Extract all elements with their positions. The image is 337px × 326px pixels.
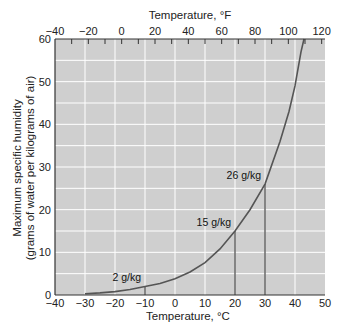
x2-tick-label: −20 [79,25,98,37]
x2-tick-label: 80 [249,25,261,37]
x-tick-label: 40 [289,297,301,309]
x2-axis-title: Temperature, °F [149,9,232,21]
y-tick-label: 30 [39,161,51,173]
x2-tick-label: 60 [216,25,228,37]
y-tick-label: 10 [39,246,51,258]
x-tick-label: −30 [76,297,95,309]
x2-tick-label: 0 [119,25,125,37]
y-tick-label: 50 [39,76,51,88]
x-tick-label: 30 [259,297,271,309]
x-tick-label: −20 [106,297,125,309]
x-tick-label: 10 [199,297,211,309]
annotation-label: 2 g/kg [112,271,141,283]
x-tick-labels: −40−30−20−1001020304050 [46,297,331,309]
annotation-label: 26 g/kg [227,169,262,181]
y-tick-label: 40 [39,118,51,130]
y-tick-label: 60 [39,33,51,45]
y-tick-label: 20 [39,204,51,216]
x-tick-label: 0 [172,297,178,309]
annotation-label: 15 g/kg [197,216,232,228]
y-axis-title-line1: Maximum specific humidity [11,99,23,237]
x2-tick-label: 40 [182,25,194,37]
x2-tick-labels: −40−20020406080100120 [46,25,331,44]
y-tick-label: 0 [45,289,51,301]
x2-tick-label: 100 [279,25,297,37]
y-tick-labels: 0102030405060 [39,33,51,301]
x-tick-label: −10 [136,297,155,309]
x-axis-title: Temperature, °C [146,310,230,322]
x-tick-label: 50 [319,297,331,309]
humidity-chart: −40−30−20−1001020304050 −40−200204060801… [0,0,337,326]
x2-tick-label: 120 [312,25,330,37]
y-axis-title-line2: (grams of water per kilograms of air) [24,75,36,260]
x2-tick-label: 20 [149,25,161,37]
x-tick-label: 20 [229,297,241,309]
